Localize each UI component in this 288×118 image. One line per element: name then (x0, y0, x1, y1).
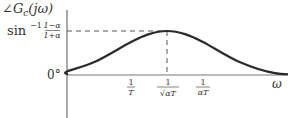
phase-plot: ∠Gc(jω) sin −1 1−α 1+α 0° 1 T 1 √αT 1 αT… (0, 0, 288, 118)
svg-text:1: 1 (200, 78, 205, 87)
y-tick-zero: 0° (47, 68, 61, 82)
y-axis-label: ∠Gc(jω) (2, 1, 53, 18)
svg-text:1−α: 1−α (43, 21, 61, 30)
svg-text:−1: −1 (30, 21, 42, 30)
y-tick-max: sin −1 1−α 1+α (7, 21, 61, 40)
svg-text:1+α: 1+α (43, 31, 61, 40)
x-tick-1-over-alpha-T: 1 αT (196, 78, 210, 97)
x-tick-1-over-T: 1 T (127, 78, 135, 97)
svg-text:αT: αT (198, 88, 209, 97)
svg-text:sin: sin (7, 23, 27, 38)
x-axis-label: ω (272, 77, 282, 91)
svg-text:√αT: √αT (160, 89, 177, 98)
x-tick-1-over-sqrt-alpha-T: 1 √αT (157, 78, 179, 98)
svg-text:1: 1 (165, 78, 170, 87)
svg-text:T: T (128, 88, 134, 97)
svg-text:1: 1 (128, 78, 133, 87)
phase-curve (65, 31, 288, 75)
